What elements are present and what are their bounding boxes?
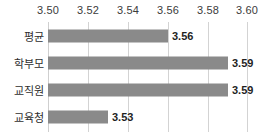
category-label-staff: 교직원 xyxy=(0,82,44,98)
bar-row-staff: 교직원 3.59 xyxy=(0,76,263,103)
bar-value-parents: 3.59 xyxy=(232,57,253,69)
x-tick-label-5: 3.58 xyxy=(197,4,219,16)
x-tick-label-3: 3.54 xyxy=(117,4,139,16)
category-label-parents: 학부모 xyxy=(0,55,44,71)
bar-value-education-office: 3.53 xyxy=(112,111,133,123)
bar-average xyxy=(48,29,168,42)
bar-value-staff: 3.59 xyxy=(232,84,253,96)
bar-value-average: 3.56 xyxy=(172,30,193,42)
bar-chart: 3.50 3.52 3.54 3.56 3.58 3.60 평균 3.56 학부… xyxy=(0,0,263,137)
x-axis: 3.50 3.52 3.54 3.56 3.58 3.60 xyxy=(48,4,248,20)
bar-parents xyxy=(48,56,228,69)
bar-education-office xyxy=(48,110,108,123)
bar-staff xyxy=(48,83,228,96)
x-tick-label-1: 3.50 xyxy=(37,4,59,16)
x-tick-label-2: 3.52 xyxy=(77,4,99,16)
category-label-education-office: 교육청 xyxy=(0,109,44,125)
x-tick-label-6: 3.60 xyxy=(236,4,258,16)
bar-row-parents: 학부모 3.59 xyxy=(0,49,263,76)
bar-rows: 평균 3.56 학부모 3.59 교직원 3.59 교육청 3.53 xyxy=(0,22,263,132)
bar-row-average: 평균 3.56 xyxy=(0,22,263,49)
category-label-average: 평균 xyxy=(0,28,44,44)
x-tick-label-4: 3.56 xyxy=(157,4,179,16)
bar-row-education-office: 교육청 3.53 xyxy=(0,103,263,130)
